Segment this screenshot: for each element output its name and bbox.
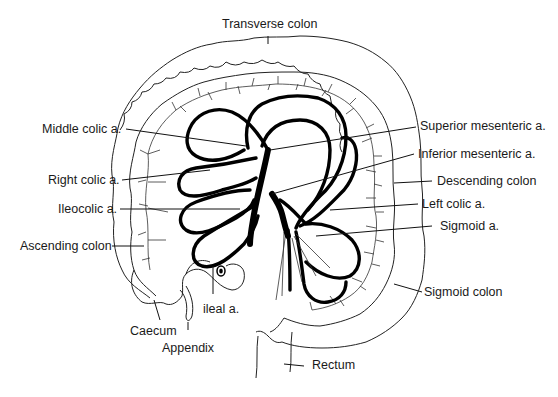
label-superior-mesenteric-artery: Superior mesenteric a. xyxy=(420,119,546,133)
label-appendix: Appendix xyxy=(162,341,215,355)
label-right-colic-artery: Right colic a. xyxy=(48,173,120,187)
label-middle-colic-artery: Middle colic a. xyxy=(42,122,121,136)
colon-blood-supply-diagram: Transverse colon Middle colic a. Right c… xyxy=(0,0,558,397)
label-ileocolic-artery: Ileocolic a. xyxy=(58,202,117,216)
label-rectum: Rectum xyxy=(312,358,355,372)
label-caecum: Caecum xyxy=(130,324,177,338)
label-left-colic-artery: Left colic a. xyxy=(422,197,485,211)
label-ileal-artery: ileal a. xyxy=(203,302,239,316)
label-inferior-mesenteric-artery: Inferior mesenteric a. xyxy=(418,147,535,161)
label-ascending-colon: Ascending colon xyxy=(20,239,112,253)
label-sigmoid-artery: Sigmoid a. xyxy=(440,219,499,233)
main-trunks xyxy=(250,150,288,244)
label-descending-colon: Descending colon xyxy=(437,174,536,188)
superior-mesenteric-trunk xyxy=(250,150,268,244)
labels: Transverse colon Middle colic a. Right c… xyxy=(20,17,546,372)
label-transverse-colon: Transverse colon xyxy=(222,17,317,31)
ileal-artery-cross-section xyxy=(217,266,225,276)
leader-lines xyxy=(112,36,432,366)
label-sigmoid-colon: Sigmoid colon xyxy=(424,285,503,299)
